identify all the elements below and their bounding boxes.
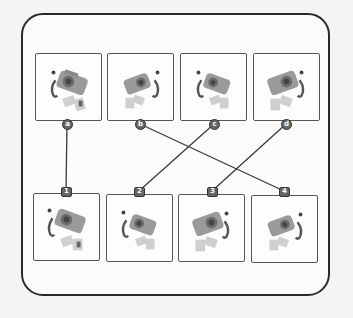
bottom-card-4[interactable] <box>251 195 318 263</box>
bottom-card-3[interactable] <box>178 194 245 262</box>
camera-icon <box>252 196 317 262</box>
bottom-label-1: 1 <box>61 187 72 197</box>
camera-icon <box>36 54 101 120</box>
top-card-b[interactable] <box>107 53 174 121</box>
camera-icon <box>107 195 172 261</box>
camera-icon <box>181 54 246 120</box>
top-card-d[interactable] <box>253 53 320 121</box>
top-label-d: d <box>281 119 292 130</box>
camera-icon <box>34 194 99 260</box>
camera-icon <box>179 195 244 261</box>
camera-icon <box>254 54 319 120</box>
bottom-card-1[interactable] <box>33 193 100 261</box>
top-card-a[interactable] <box>35 53 102 121</box>
top-label-b: b <box>135 119 146 130</box>
top-label-a: a <box>62 119 73 130</box>
bottom-card-2[interactable] <box>106 194 173 262</box>
bottom-label-2: 2 <box>134 187 145 197</box>
camera-icon <box>108 54 173 120</box>
bottom-label-3: 3 <box>207 187 218 197</box>
top-card-c[interactable] <box>180 53 247 121</box>
top-label-c: c <box>209 119 220 130</box>
bottom-label-4: 4 <box>279 187 290 197</box>
